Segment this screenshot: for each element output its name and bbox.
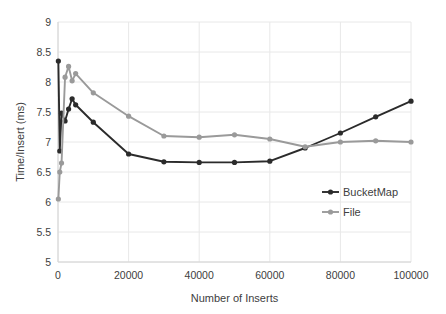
x-tick-label: 20000 [114, 269, 143, 281]
data-point [338, 139, 343, 144]
data-point [408, 99, 413, 104]
data-point [62, 75, 67, 80]
x-tick-label: 100000 [393, 269, 428, 281]
data-point [91, 90, 96, 95]
y-tick-label: 8 [45, 76, 51, 88]
y-tick-label: 9 [45, 16, 51, 28]
data-point [373, 114, 378, 119]
y-tick-label: 6 [45, 196, 51, 208]
x-tick-label: 60000 [255, 269, 284, 281]
data-point [126, 114, 131, 119]
data-point [161, 133, 166, 138]
data-point [91, 120, 96, 125]
data-point [66, 106, 71, 111]
y-tick-label: 5 [45, 256, 51, 268]
data-point [70, 78, 75, 83]
data-point [373, 138, 378, 143]
x-tick-label: 0 [55, 269, 61, 281]
y-tick-label: 5.5 [36, 226, 51, 238]
y-tick-label: 7 [45, 136, 51, 148]
data-point [303, 144, 308, 149]
data-point [267, 136, 272, 141]
data-point [70, 96, 75, 101]
x-tick-label: 80000 [326, 269, 355, 281]
legend-label: File [343, 206, 361, 218]
y-tick-label: 6.5 [36, 166, 51, 178]
data-point [338, 130, 343, 135]
x-axis-tick-labels: 020000400006000080000100000 [55, 269, 429, 281]
data-point [126, 151, 131, 156]
data-point [197, 160, 202, 165]
data-point [57, 169, 62, 174]
data-point [56, 196, 61, 201]
y-tick-label: 7.5 [36, 106, 51, 118]
data-point [197, 135, 202, 140]
data-point [161, 159, 166, 164]
y-tick-label: 8.5 [36, 46, 51, 58]
y-axis-tick-labels: 55.566.577.588.59 [36, 16, 51, 268]
x-axis-title: Number of Inserts [191, 292, 279, 304]
data-point [73, 71, 78, 76]
y-axis-title: Time/Insert (ms) [14, 102, 26, 182]
data-point [232, 160, 237, 165]
data-point [56, 58, 61, 63]
line-chart: 55.566.577.588.5902000040000600008000010… [0, 0, 446, 314]
data-point [267, 159, 272, 164]
x-tick-label: 40000 [185, 269, 214, 281]
legend-label: BucketMap [343, 186, 398, 198]
data-point [408, 139, 413, 144]
data-point [59, 160, 64, 165]
legend-marker-dot [328, 209, 333, 214]
legend-marker-dot [328, 189, 333, 194]
data-point [232, 132, 237, 137]
data-point [73, 102, 78, 107]
chart-container: 55.566.577.588.5902000040000600008000010… [0, 0, 446, 314]
data-point [66, 64, 71, 69]
